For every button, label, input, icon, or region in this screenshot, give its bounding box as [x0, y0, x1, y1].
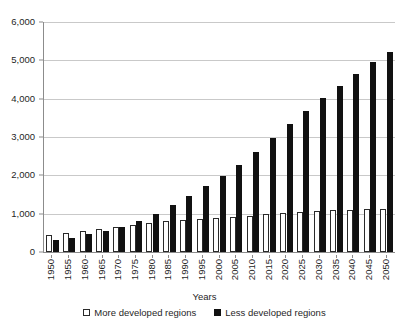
- x-tick-mark: [319, 255, 320, 258]
- y-tick-label: 1,000: [11, 209, 35, 219]
- filled-square-icon: [214, 309, 221, 316]
- bar-more-developed: [230, 217, 236, 252]
- bar-group: [362, 22, 379, 252]
- bar-group: [378, 22, 395, 252]
- bar-group: [111, 22, 128, 252]
- x-tick-mark: [235, 255, 236, 258]
- x-tick-label: 1980: [147, 259, 157, 280]
- legend-label-less-developed: Less developed regions: [225, 307, 325, 318]
- x-tick-mark: [185, 255, 186, 258]
- bar-more-developed: [130, 225, 136, 252]
- bar-group: [144, 22, 161, 252]
- bar-less-developed: [353, 74, 359, 252]
- bar-more-developed: [163, 221, 169, 252]
- bar-more-developed: [146, 223, 152, 252]
- bar-group: [194, 22, 211, 252]
- x-tick-mark: [168, 255, 169, 258]
- x-tick-label: 1960: [80, 259, 90, 280]
- x-tick-mark: [118, 255, 119, 258]
- open-square-icon: [83, 309, 90, 316]
- bar-more-developed: [213, 218, 219, 252]
- x-tick-mark: [369, 255, 370, 258]
- bar-group: [245, 22, 262, 252]
- bar-less-developed: [236, 165, 242, 252]
- x-tick-mark: [386, 255, 387, 258]
- x-tick-label: 2050: [381, 259, 391, 280]
- bar-more-developed: [263, 214, 269, 252]
- bar-less-developed: [119, 227, 125, 252]
- x-tick-label: 2015: [264, 259, 274, 280]
- bar-less-developed: [203, 186, 209, 252]
- x-tick-mark: [336, 255, 337, 258]
- bar-group: [211, 22, 228, 252]
- bar-group: [178, 22, 195, 252]
- x-tick-label: 2030: [314, 259, 324, 280]
- population-bar-chart: 01,0002,0003,0004,0005,0006,000 19501955…: [0, 0, 409, 329]
- bar-less-developed: [136, 221, 142, 252]
- x-tick-mark: [68, 255, 69, 258]
- x-tick-label: 2025: [297, 259, 307, 280]
- bar-group: [311, 22, 328, 252]
- bar-less-developed: [220, 176, 226, 252]
- x-tick-label: 2040: [347, 259, 357, 280]
- x-tick-label: 2000: [214, 259, 224, 280]
- x-tick-mark: [51, 255, 52, 258]
- x-tick-label: 1990: [180, 259, 190, 280]
- bar-less-developed: [53, 240, 59, 252]
- y-axis: 01,0002,0003,0004,0005,0006,000: [0, 0, 43, 253]
- bar-less-developed: [337, 86, 343, 252]
- y-tick-label: 4,000: [11, 94, 35, 104]
- bar-less-developed: [387, 52, 393, 252]
- x-tick-label: 2020: [280, 259, 290, 280]
- bar-group: [328, 22, 345, 252]
- x-tick-mark: [285, 255, 286, 258]
- bar-more-developed: [297, 212, 303, 252]
- x-tick-label: 2010: [247, 259, 257, 280]
- bar-group: [77, 22, 94, 252]
- x-tick-label: 2035: [331, 259, 341, 280]
- bar-group: [61, 22, 78, 252]
- y-tick-label: 3,000: [11, 132, 35, 142]
- legend-item-less-developed: Less developed regions: [214, 307, 325, 318]
- x-axis: 1950195519601965197019751980198519901995…: [43, 255, 395, 291]
- bar-less-developed: [287, 124, 293, 252]
- x-tick-mark: [302, 255, 303, 258]
- bar-less-developed: [69, 238, 75, 252]
- bar-more-developed: [280, 213, 286, 252]
- plot-area: [43, 22, 395, 253]
- x-tick-label: 2005: [230, 259, 240, 280]
- bar-less-developed: [170, 205, 176, 252]
- x-tick-label: 1975: [130, 259, 140, 280]
- x-tick-label: 1955: [63, 259, 73, 280]
- x-tick-mark: [202, 255, 203, 258]
- bar-more-developed: [247, 216, 253, 252]
- x-tick-label: 1965: [97, 259, 107, 280]
- bar-less-developed: [153, 214, 159, 252]
- bar-more-developed: [197, 219, 203, 252]
- x-axis-title: Years: [0, 291, 409, 302]
- bar-more-developed: [63, 233, 69, 252]
- x-tick-label: 1985: [163, 259, 173, 280]
- x-tick-label: 1970: [113, 259, 123, 280]
- bar-group: [295, 22, 312, 252]
- y-tick-label: 6,000: [11, 17, 35, 27]
- bar-more-developed: [96, 229, 102, 252]
- bar-less-developed: [303, 111, 309, 252]
- bar-more-developed: [80, 231, 86, 252]
- bar-more-developed: [380, 209, 386, 252]
- x-tick-mark: [85, 255, 86, 258]
- y-tick-label: 5,000: [11, 55, 35, 65]
- bar-more-developed: [180, 220, 186, 252]
- y-tick-label: 2,000: [11, 170, 35, 180]
- bar-group: [161, 22, 178, 252]
- x-tick-mark: [219, 255, 220, 258]
- bar-group: [44, 22, 61, 252]
- bar-less-developed: [103, 231, 109, 252]
- bar-group: [94, 22, 111, 252]
- legend-label-more-developed: More developed regions: [94, 307, 196, 318]
- bar-less-developed: [86, 234, 92, 252]
- bar-group: [345, 22, 362, 252]
- x-tick-mark: [102, 255, 103, 258]
- chart-legend: More developed regions Less developed re…: [0, 307, 409, 318]
- x-tick-label: 1995: [197, 259, 207, 280]
